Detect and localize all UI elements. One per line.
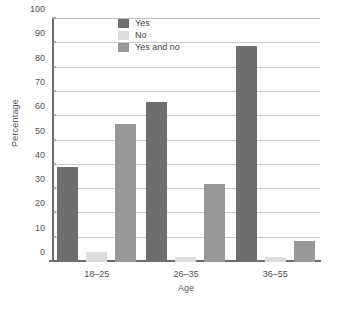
bar[interactable]	[294, 241, 315, 262]
y-axis-tick-label: 20	[35, 198, 52, 208]
legend-swatch-icon	[118, 19, 129, 28]
bar-group: 18–25	[52, 19, 141, 262]
bar[interactable]	[115, 124, 136, 263]
bar-group: 36–55	[231, 19, 320, 262]
legend-label: No	[135, 31, 147, 40]
bar[interactable]	[204, 184, 225, 262]
legend-label: Yes and no	[135, 43, 180, 52]
legend-item-yes-and-no: Yes and no	[118, 43, 180, 52]
legend-item-no: No	[118, 31, 180, 40]
y-axis-tick-label: 60	[35, 101, 52, 111]
y-axis-tick-label: 30	[35, 174, 52, 184]
x-axis-tick-label: 36–55	[263, 269, 288, 279]
y-axis-tick-label: 40	[35, 150, 52, 160]
legend-item-yes: Yes	[118, 19, 180, 28]
y-axis-tick-label: 0	[40, 247, 52, 257]
legend-label: Yes	[135, 19, 150, 28]
chart-legend: Yes No Yes and no	[118, 19, 180, 52]
y-axis-title: Percentage	[10, 83, 20, 163]
bar[interactable]	[236, 46, 257, 262]
legend-swatch-icon	[118, 43, 129, 52]
y-axis-tick-label: 50	[35, 126, 52, 136]
y-axis-tick-label: 70	[35, 77, 52, 87]
y-axis-tick-label: 80	[35, 53, 52, 63]
plot-area: 010203040506070809010018–2526–3536–55	[52, 19, 320, 262]
y-axis-tick-label: 100	[30, 4, 52, 14]
y-axis-tick-label: 10	[35, 223, 52, 233]
x-axis-title: Age	[52, 283, 320, 293]
legend-swatch-icon	[118, 31, 129, 40]
x-axis-tick-label: 26–35	[173, 269, 198, 279]
bar[interactable]	[175, 257, 196, 262]
bar[interactable]	[86, 252, 107, 262]
bar-chart: Percentage 010203040506070809010018–2526…	[0, 0, 337, 312]
bar-group: 26–35	[141, 19, 230, 262]
y-axis-tick-label: 90	[35, 28, 52, 38]
bar[interactable]	[57, 167, 78, 262]
bar[interactable]	[265, 257, 286, 262]
x-axis-tick-label: 18–25	[84, 269, 109, 279]
bar[interactable]	[146, 102, 167, 262]
